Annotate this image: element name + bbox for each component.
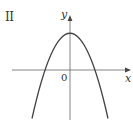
x-axis-label: x [125, 73, 131, 84]
origin-label: 0 [61, 73, 67, 83]
y-axis-label: y [61, 9, 67, 20]
panel-label: II [5, 11, 13, 23]
parabola-figure: II y x 0 [0, 0, 133, 130]
y-axis-arrow-icon [68, 15, 73, 21]
